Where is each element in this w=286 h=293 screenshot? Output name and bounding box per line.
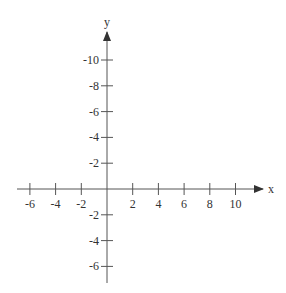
y-axis-ticks: -2-4-6-8-10-2-4-6 [83,53,113,273]
y-tick-label: -6 [89,105,99,119]
x-tick-label: 10 [230,197,242,211]
x-tick-label: 2 [130,197,136,211]
x-tick-label: 4 [155,197,161,211]
x-axis-label: x [268,182,274,196]
x-tick-label: 6 [181,197,187,211]
x-tick-label: -4 [51,197,61,211]
x-axis-ticks: -6-4-2246810 [25,183,242,211]
x-tick-label: -2 [76,197,86,211]
y-axis-label: y [104,15,110,29]
y-tick-label: -6 [89,259,99,273]
y-tick-label: -2 [89,208,99,222]
coordinate-plane: x y -6-4-2246810 -2-4-6-8-10-2-4-6 [0,0,286,293]
y-tick-label: -4 [89,234,99,248]
x-tick-label: -6 [25,197,35,211]
x-tick-label: 8 [207,197,213,211]
y-tick-label: -10 [83,53,99,67]
y-tick-label: -2 [89,156,99,170]
y-tick-label: -4 [89,130,99,144]
y-tick-label: -8 [89,79,99,93]
